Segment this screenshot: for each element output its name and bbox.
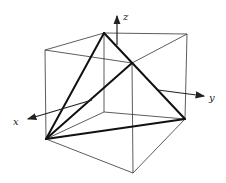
tetrahedron-edges bbox=[46, 33, 185, 139]
y-axis bbox=[158, 90, 204, 96]
x-axis-label: x bbox=[13, 116, 19, 127]
z-axis-label: z bbox=[122, 11, 129, 22]
diagram-canvas: z y x bbox=[0, 0, 226, 183]
y-axis-label: y bbox=[208, 92, 215, 103]
cube-tetrahedron-diagram: z y x bbox=[0, 0, 226, 183]
x-axis bbox=[28, 100, 92, 119]
axes bbox=[28, 16, 204, 119]
